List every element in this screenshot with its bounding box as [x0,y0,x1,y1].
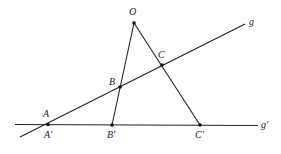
point-label-b: B [109,76,115,87]
point-a [46,123,50,127]
lines-layer [15,24,258,137]
line-g-prime [15,125,258,126]
ray-o-b-prime [112,23,134,125]
perspectivity-diagram: gg'OABCA'B'C' [0,0,281,154]
labels-layer: gg'OABCA'B'C' [42,6,269,140]
point-label-a-prime: A' [43,129,53,140]
rays-layer [112,23,200,125]
line-label-g: g [249,16,254,27]
point-label-o: O [129,6,136,17]
point-label-a: A [42,108,50,119]
point-b-prime [110,123,114,127]
point-c [160,63,164,67]
point-label-c: C [158,49,165,60]
point-b [118,85,122,89]
points-layer [46,21,202,127]
point-label-c-prime: C' [195,129,205,140]
line-g [20,24,245,137]
point-label-b-prime: B' [107,129,116,140]
point-c-prime [198,123,202,127]
line-label-g-prime: g' [261,119,269,130]
point-o [132,21,136,25]
ray-o-c-prime [134,23,200,125]
